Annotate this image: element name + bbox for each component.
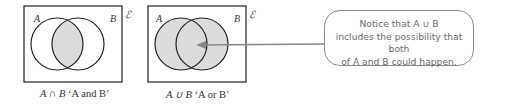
set-a-label: A	[155, 13, 163, 24]
caption-text: ‘A or B’	[195, 89, 230, 100]
intersection-venn: A B ℰ	[24, 6, 132, 82]
caption-union: A ∪ B ‘A or B’	[166, 88, 230, 100]
caption-text: ‘A and B’	[68, 88, 109, 99]
set-b-label: B	[234, 13, 240, 24]
callout-note: Notice that A ∪ B includes the possibili…	[324, 10, 474, 66]
callout-line-1: Notice that A ∪ B	[325, 18, 473, 31]
universal-label: ℰ	[249, 9, 256, 20]
caption-expr: A ∩ B	[40, 88, 65, 99]
caption-intersection: A ∩ B ‘A and B’	[40, 88, 110, 99]
set-a-label: A	[33, 13, 41, 24]
set-b-label: B	[110, 13, 116, 24]
callout-line-3: of A and B could happen.	[325, 56, 473, 69]
universal-label: ℰ	[125, 9, 132, 20]
callout-line-2: includes the possibility that both	[325, 31, 473, 56]
caption-expr: A ∪ B	[166, 89, 192, 100]
